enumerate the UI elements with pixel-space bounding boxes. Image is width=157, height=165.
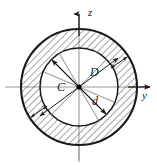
inner-diameter-label: d xyxy=(92,94,99,108)
z-axis-label: z xyxy=(87,6,93,18)
figure-canvas: z y C D d xyxy=(0,0,157,165)
outer-diameter-label: D xyxy=(89,65,99,79)
centroid-label: C xyxy=(57,80,66,94)
annular-cross-section-figure: z y C D d xyxy=(0,0,157,165)
y-axis-label: y xyxy=(141,89,147,101)
centroid-point xyxy=(76,84,81,89)
